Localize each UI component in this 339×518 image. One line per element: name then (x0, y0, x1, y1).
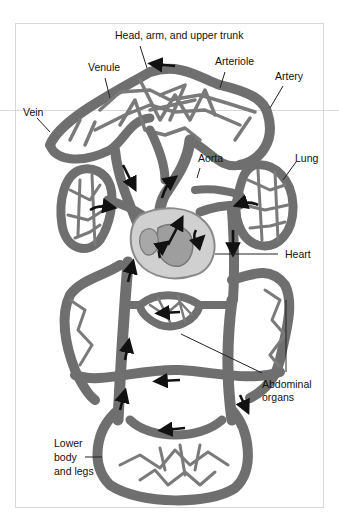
label-venule: Venule (88, 61, 120, 73)
vessels (50, 69, 293, 501)
label-lower-line3: and legs (54, 465, 94, 477)
label-aorta: Aorta (198, 152, 223, 164)
label-abdominal-line1: Abdominal (262, 378, 312, 390)
label-lower-line2: body (54, 451, 77, 463)
label-vein: Vein (23, 106, 43, 118)
label-abdominal-line2: organs (262, 391, 294, 403)
label-arteriole: Arteriole (215, 55, 254, 67)
heart-illustration (131, 208, 215, 278)
label-lung: Lung (295, 152, 318, 164)
label-artery: Artery (275, 70, 303, 82)
label-heart: Heart (285, 248, 311, 260)
label-lower-line1: Lower (54, 437, 83, 449)
label-head-arm-upper-trunk: Head, arm, and upper trunk (115, 29, 243, 41)
